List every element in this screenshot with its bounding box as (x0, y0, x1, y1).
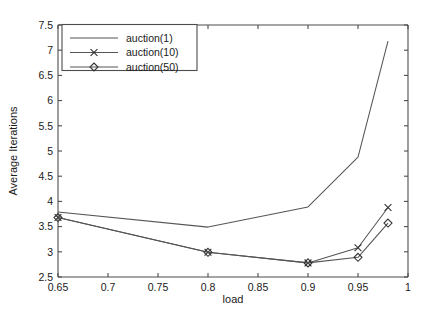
x-tick-label: 0.85 (248, 281, 269, 293)
legend-item-label: auction(10) (126, 46, 179, 58)
x-tick-label: 0.65 (48, 281, 69, 293)
legend: auction(1)auction(10)auction(50) (62, 25, 197, 73)
x-tick-label: 0.95 (348, 281, 369, 293)
series-group (54, 41, 392, 267)
y-tick-label: 5 (47, 145, 53, 157)
y-tick-label: 2.5 (38, 271, 53, 283)
x-axis-title: load (223, 293, 244, 305)
y-tick-label: 4.5 (38, 170, 53, 182)
line-chart: 0.650.70.750.80.850.90.951 2.533.544.555… (0, 0, 432, 316)
y-axis-title: Average Iterations (7, 106, 19, 196)
series-3 (54, 214, 392, 267)
series-line (58, 207, 388, 262)
legend-item-label: auction(1) (126, 32, 173, 44)
x-tick-label: 0.8 (201, 281, 216, 293)
x-tick-label: 1 (405, 281, 411, 293)
y-tick-label: 6.5 (38, 69, 53, 81)
x-tick-label: 0.75 (148, 281, 169, 293)
y-tick-label: 6 (47, 94, 53, 106)
series-2 (55, 204, 392, 266)
y-tick-label: 7.5 (38, 19, 53, 31)
y-tick-label: 5.5 (38, 120, 53, 132)
y-tick-label: 3 (47, 246, 53, 258)
y-tick-label: 7 (47, 44, 53, 56)
y-tick-label: 3.5 (38, 220, 53, 232)
x-tick-label: 0.7 (101, 281, 116, 293)
legend-item-label: auction(50) (126, 61, 179, 73)
x-tick-label: 0.9 (301, 281, 316, 293)
figure: 0.650.70.750.80.850.90.951 2.533.544.555… (0, 0, 432, 316)
y-tick-label: 4 (47, 195, 53, 207)
